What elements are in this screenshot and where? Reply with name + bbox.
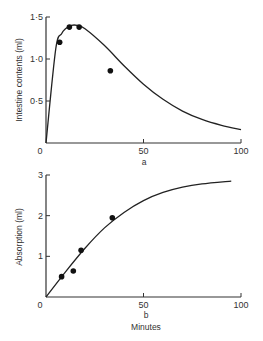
panel-a: 0501000·51·01·5 [30,12,249,156]
data-point [108,68,114,74]
x-axis-title-minutes: Minutes [131,322,161,332]
x-tick-label: 0 [37,300,42,310]
data-point [78,247,84,253]
data-point [71,268,77,274]
y-tick-label: 1 [38,251,43,261]
x-tick-label: 50 [138,300,148,310]
data-point [57,39,63,45]
x-tick-label: 0 [37,146,42,156]
x-tick-label: 100 [233,300,248,310]
x-tick-label: 100 [233,146,248,156]
data-point [59,274,65,280]
y-tick-label: 3 [38,170,43,180]
panel-a-ylabel: Intestine contents (ml) [14,38,24,122]
y-tick-label: 1·5 [30,12,43,22]
y-tick-label: 2 [38,211,43,221]
x-tick-label: 50 [138,146,148,156]
y-tick-label: 1·0 [30,54,43,64]
fit-curve [46,25,241,143]
data-point [67,24,73,30]
panel-b: 050100123 [37,170,248,310]
fit-curve [46,181,231,297]
data-point [110,215,116,221]
data-point [76,24,82,30]
y-tick-label: 0·5 [30,96,43,106]
panel-b-ylabel: Absorption (ml) [14,208,24,266]
panel-a-label: a [142,157,147,167]
panel-b-label: b [144,310,149,320]
chart-figure: 0501000·51·01·5 050100123 Intestine cont… [0,0,263,341]
